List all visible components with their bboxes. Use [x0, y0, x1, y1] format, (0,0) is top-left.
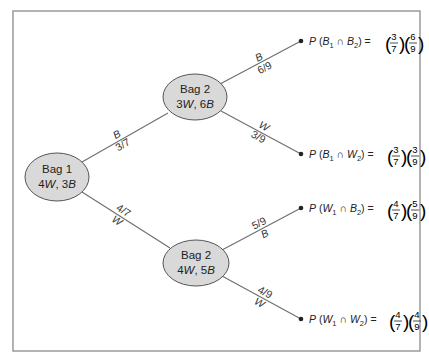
node-bag1: Bag 1 4W, 3B — [25, 153, 89, 201]
node-bag2-top: Bag 2 3W, 6B — [163, 74, 227, 120]
endpoint-dot — [299, 206, 304, 211]
svg-text:6: 6 — [410, 31, 415, 42]
outcome-bw-fractions: ( 3 7 ) ( 3 9 ) — [387, 144, 426, 167]
node-bag2-top-title: Bag 2 — [180, 83, 210, 95]
node-bag2-bottom: Bag 2 4W, 5B — [163, 240, 229, 286]
endpoint-dot — [299, 317, 304, 322]
svg-text:4: 4 — [395, 309, 400, 320]
svg-text:3: 3 — [412, 144, 417, 155]
svg-text:): ) — [420, 146, 426, 167]
outcome-bb-fractions: ( 3 7 ) ( 6 9 ) — [385, 31, 424, 54]
svg-text:9: 9 — [414, 321, 419, 332]
svg-text:5: 5 — [412, 198, 417, 209]
svg-text:): ) — [418, 33, 424, 54]
endpoint-dot — [299, 39, 304, 44]
svg-text:7: 7 — [393, 156, 398, 167]
node-bag2-bottom-contents: 4W, 5B — [177, 264, 215, 276]
svg-text:3: 3 — [393, 144, 398, 155]
svg-text:7: 7 — [395, 321, 400, 332]
node-bag1-contents: 4W, 3B — [38, 178, 76, 190]
svg-text:4: 4 — [393, 198, 398, 209]
svg-text:): ) — [422, 311, 428, 332]
node-bag1-ellipse — [25, 153, 89, 201]
svg-text:7: 7 — [393, 210, 398, 221]
svg-text:4: 4 — [414, 309, 419, 320]
node-bag1-title: Bag 1 — [42, 163, 72, 175]
outcome-wb-fractions: ( 4 7 ) ( 5 9 ) — [387, 198, 426, 221]
svg-text:3: 3 — [391, 31, 396, 42]
svg-text:): ) — [420, 200, 426, 221]
svg-text:9: 9 — [412, 156, 417, 167]
node-bag2-top-contents: 3W, 6B — [176, 98, 214, 110]
node-bag2-bottom-title: Bag 2 — [181, 249, 211, 261]
svg-text:7: 7 — [391, 43, 396, 54]
node-bag2-top-ellipse — [163, 74, 227, 120]
node-bag2-bottom-ellipse — [163, 240, 229, 286]
outcome-ww-fractions: ( 4 7 ) ( 4 9 ) — [389, 309, 428, 332]
endpoint-dot — [299, 152, 304, 157]
probability-tree-diagram: Bag 1 4W, 3B Bag 2 3W, 6B Bag 2 4W, 5B B… — [0, 0, 429, 362]
svg-text:9: 9 — [410, 43, 415, 54]
svg-text:9: 9 — [412, 210, 417, 221]
